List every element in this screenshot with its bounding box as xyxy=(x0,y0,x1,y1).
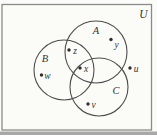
element-label-z: z xyxy=(72,46,77,56)
element-label-y: y xyxy=(113,40,119,50)
element-dot-v xyxy=(86,102,89,105)
set-label-a: A xyxy=(92,25,100,36)
scanned-figure: UABCyzxwuv xyxy=(0,0,157,135)
set-label-c: C xyxy=(112,85,120,96)
set-label-b: B xyxy=(42,53,49,64)
universe-label: U xyxy=(139,8,148,20)
element-dot-z xyxy=(67,48,70,51)
element-dot-w xyxy=(40,73,43,76)
venn-diagram: UABCyzxwuv xyxy=(0,0,157,135)
element-label-w: w xyxy=(44,71,51,81)
element-dot-u xyxy=(128,66,131,69)
element-label-x: x xyxy=(83,64,89,74)
element-label-u: u xyxy=(134,64,139,74)
element-dot-x xyxy=(78,66,81,69)
page-edge-shadow xyxy=(0,132,157,136)
element-dot-y xyxy=(109,38,112,41)
